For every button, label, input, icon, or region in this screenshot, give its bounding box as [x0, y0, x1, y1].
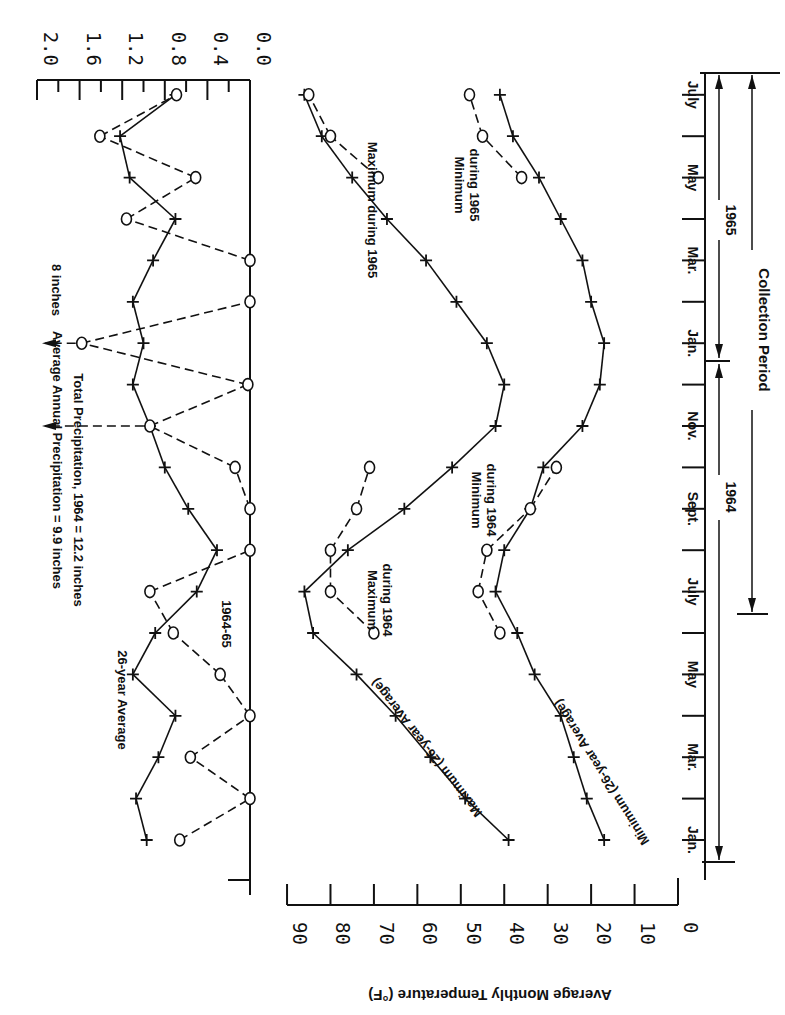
temp-series-segment — [582, 260, 591, 301]
climate-chart: 0102030405060708090Average Monthly Tempe… — [0, 0, 785, 1015]
max-1964-label: during 1964 — [380, 564, 395, 638]
precip-avg-series-segment — [136, 799, 147, 840]
month-label: Sept. — [685, 492, 701, 526]
precip-obs-series-segment — [180, 799, 250, 840]
temp-tick-label: 10 — [637, 922, 659, 945]
plus-marker-icon — [182, 503, 194, 515]
temp-series-segment — [582, 385, 599, 426]
precip-tick-label: 1.6 — [83, 32, 105, 66]
plus-marker-icon — [481, 337, 493, 349]
plus-marker-icon — [127, 296, 139, 308]
circle-marker-icon — [175, 834, 185, 846]
plus-marker-icon — [211, 544, 223, 556]
plus-marker-icon — [114, 130, 126, 142]
min-1965-label: Minimum — [452, 156, 467, 213]
precip-obs-series-segment — [220, 674, 250, 715]
precip-avg-series-label: 26-year Average — [115, 650, 130, 750]
precip-avg-series-segment — [133, 343, 144, 384]
temp-series-segment — [330, 509, 356, 550]
plus-marker-icon — [498, 544, 510, 556]
temp-series-segment — [500, 95, 513, 136]
plus-marker-icon — [555, 213, 567, 225]
arrowhead-icon — [715, 364, 723, 378]
plus-marker-icon — [511, 627, 523, 639]
plus-marker-icon — [138, 337, 150, 349]
precip-obs-series-segment — [190, 757, 250, 798]
month-label: July — [685, 578, 701, 606]
plus-marker-icon — [159, 461, 171, 473]
plus-marker-icon — [127, 379, 139, 391]
avg-annual-precip-label: Average Annual Precipitation = 9.9 inche… — [50, 331, 65, 589]
precip-avg-series-segment — [158, 716, 175, 757]
temp-series-segment — [304, 550, 347, 591]
month-label: July — [685, 81, 701, 109]
temp-series-segment — [587, 799, 604, 840]
circle-marker-icon — [185, 751, 195, 763]
circle-marker-icon — [245, 503, 255, 515]
circle-marker-icon — [464, 89, 474, 101]
temp-series-segment — [591, 302, 604, 343]
arrowhead-icon — [748, 75, 756, 89]
plus-marker-icon — [594, 379, 606, 391]
circle-marker-icon — [525, 503, 535, 515]
circle-marker-icon — [245, 793, 255, 805]
circle-marker-icon — [482, 544, 492, 556]
plus-marker-icon — [507, 130, 519, 142]
plus-marker-icon — [490, 586, 502, 598]
circle-marker-icon — [245, 710, 255, 722]
circle-marker-icon — [172, 89, 182, 101]
year-1965-label: 1965 — [723, 204, 739, 235]
plus-marker-icon — [494, 89, 506, 101]
circle-marker-icon — [245, 254, 255, 266]
circle-marker-icon — [325, 586, 335, 598]
temp-series-segment — [426, 260, 456, 301]
month-label: Jan. — [685, 329, 701, 357]
precip-obs-series-segment — [100, 95, 177, 136]
max-avg-label: Maximum (26-year Average) — [368, 675, 486, 820]
month-label: May — [685, 164, 701, 191]
precip-avg-series-segment — [188, 509, 217, 550]
temp-series-segment — [483, 136, 522, 177]
min-avg-label: Minimum (26-year Average) — [550, 697, 652, 848]
temp-series-segment — [452, 426, 495, 467]
precip-avg-series-segment — [133, 385, 150, 426]
precip-obs-series-segment — [150, 385, 248, 426]
temp-series-segment — [313, 633, 356, 674]
circle-marker-icon — [168, 627, 178, 639]
temp-series-segment — [404, 467, 452, 508]
min-1964-label: during 1964 — [484, 464, 499, 538]
circle-marker-icon — [517, 172, 527, 184]
plus-marker-icon — [533, 172, 545, 184]
temp-series-segment — [543, 426, 582, 467]
min-1965-label: during 1965 — [467, 149, 482, 222]
month-label: Nov. — [685, 411, 701, 440]
precip-obs-series-segment — [82, 302, 250, 343]
chart-canvas: 0102030405060708090Average Monthly Tempe… — [0, 0, 785, 1015]
circle-marker-icon — [245, 296, 255, 308]
arrowhead-icon — [715, 344, 723, 358]
temp-series-segment — [487, 343, 504, 384]
plus-marker-icon — [568, 751, 580, 763]
temp-series-segment — [496, 385, 505, 426]
plus-marker-icon — [585, 296, 597, 308]
precip-avg-series-segment — [133, 633, 155, 674]
collection-period-label: Collection Period — [756, 268, 773, 391]
temp-tick-label: 70 — [376, 922, 398, 945]
precip-tick-label: 0.0 — [253, 32, 275, 66]
plus-marker-icon — [147, 254, 159, 266]
temp-series-segment — [496, 550, 505, 591]
circle-marker-icon — [191, 172, 201, 184]
temp-series-segment — [600, 343, 604, 384]
temp-tick-label: 50 — [463, 922, 485, 945]
month-label: Jan. — [685, 826, 701, 854]
precip-avg-series-segment — [120, 95, 175, 136]
circle-marker-icon — [145, 586, 155, 598]
plus-marker-icon — [141, 834, 153, 846]
precip-tick-label: 1.2 — [125, 32, 147, 66]
plus-marker-icon — [598, 834, 610, 846]
precip-avg-series-segment — [120, 136, 130, 177]
plus-marker-icon — [130, 793, 142, 805]
precip-avg-series-segment — [130, 178, 176, 219]
plus-marker-icon — [529, 668, 541, 680]
temp-tick-label: 20 — [593, 922, 615, 945]
